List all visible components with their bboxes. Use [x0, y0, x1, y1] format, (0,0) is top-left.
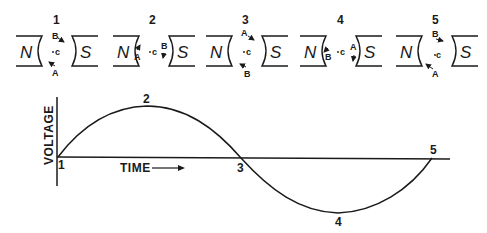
center-label-3: c — [246, 47, 251, 57]
graph-point-5: 5 — [430, 143, 437, 157]
coil-side-b-1: B — [52, 31, 59, 41]
time-axis-label: TIME — [120, 161, 151, 175]
center-label-1: c — [55, 47, 60, 57]
center-label-2: c — [152, 47, 157, 57]
north-label-4: N — [304, 43, 317, 62]
north-label-1: N — [20, 43, 33, 62]
south-label-5: S — [460, 43, 472, 62]
magnet-position-4: 4 N S c B A — [300, 13, 382, 66]
generator-diagram: 1 N S c B A 2 N S c A B 3 N S c A B — [0, 0, 487, 233]
coil-side-b-4: B — [325, 52, 332, 62]
sine-wave — [58, 106, 432, 213]
coil-side-a-2: A — [134, 52, 141, 62]
graph-point-2: 2 — [143, 92, 150, 106]
position-number-1: 1 — [53, 13, 60, 27]
center-label-4: c — [340, 47, 345, 57]
graph-point-1: 1 — [58, 158, 65, 172]
position-number-3: 3 — [242, 13, 249, 27]
coil-side-b-5: B — [432, 29, 439, 39]
magnet-position-1: 1 N S c B A — [16, 13, 98, 78]
south-label-2: S — [177, 43, 189, 62]
voltage-axis-label: VOLTAGE — [42, 105, 56, 165]
south-label-4: S — [364, 43, 376, 62]
time-axis — [57, 157, 450, 159]
coil-side-a-1: A — [52, 68, 59, 78]
south-label-3: S — [270, 43, 282, 62]
magnet-position-5: 5 N S c B A — [396, 13, 478, 79]
center-label-5: c — [436, 50, 441, 60]
magnet-position-3: 3 N S c A B — [206, 13, 288, 79]
position-number-4: 4 — [337, 13, 344, 27]
coil-side-a-4: A — [350, 42, 357, 52]
north-label-2: N — [117, 43, 130, 62]
graph-point-3: 3 — [237, 161, 244, 175]
coil-side-b-2: B — [161, 41, 168, 51]
north-label-5: N — [400, 43, 413, 62]
magnet-position-2: 2 N S c A B — [113, 13, 195, 66]
voltage-time-graph: VOLTAGE TIME 1 2 3 4 5 — [42, 92, 450, 229]
position-number-5: 5 — [432, 13, 439, 27]
coil-side-b-3: B — [244, 69, 251, 79]
south-label-1: S — [80, 43, 92, 62]
graph-point-4: 4 — [335, 215, 342, 229]
north-label-3: N — [210, 43, 223, 62]
coil-side-a-3: A — [241, 28, 248, 38]
position-number-2: 2 — [149, 13, 156, 27]
coil-side-a-5: A — [432, 69, 439, 79]
